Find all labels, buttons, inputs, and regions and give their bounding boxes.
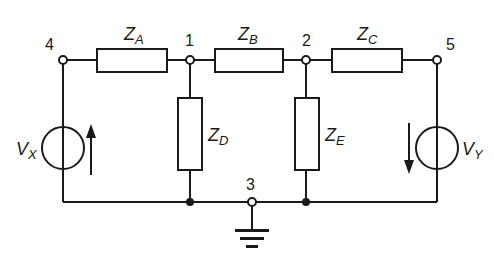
impedance-ze bbox=[295, 98, 319, 170]
node-3-terminal bbox=[248, 198, 256, 206]
label-ze: ZE bbox=[324, 125, 345, 148]
node-label-1: 1 bbox=[185, 32, 194, 49]
label-zb: ZB bbox=[237, 24, 258, 47]
node-label-5: 5 bbox=[446, 36, 455, 53]
ground-icon bbox=[235, 229, 269, 248]
impedance-zc bbox=[332, 49, 402, 72]
node-label-4: 4 bbox=[45, 36, 54, 53]
label-zc: ZC bbox=[356, 24, 378, 47]
node-5-terminal bbox=[433, 56, 441, 64]
impedance-za bbox=[97, 49, 167, 72]
node-4-terminal bbox=[59, 56, 67, 64]
label-vy: VY bbox=[462, 139, 484, 162]
impedance-zd bbox=[178, 98, 202, 170]
arrow-down-icon bbox=[404, 123, 414, 174]
node-label-2: 2 bbox=[302, 32, 311, 49]
label-zd: ZD bbox=[207, 125, 228, 148]
arrow-up-icon bbox=[86, 124, 96, 175]
label-za: ZA bbox=[123, 24, 144, 47]
junction-dot-zd bbox=[186, 198, 194, 206]
node-2-terminal bbox=[302, 56, 310, 64]
label-vx: VX bbox=[16, 139, 38, 162]
node-label-3: 3 bbox=[246, 176, 255, 193]
node-1-terminal bbox=[186, 56, 194, 64]
circuit-diagram: 4 1 2 5 3 ZA ZB ZC ZD ZE VX VY bbox=[0, 0, 494, 271]
junction-dot-ze bbox=[302, 198, 310, 206]
impedance-zb bbox=[215, 49, 283, 72]
